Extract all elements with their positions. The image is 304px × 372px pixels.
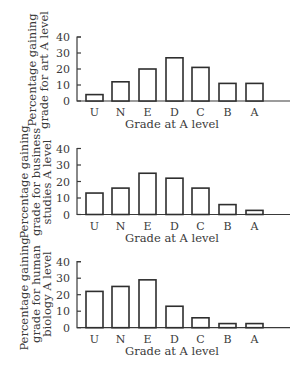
y-tick-label: 10 (56, 192, 70, 205)
bar-D (166, 58, 183, 101)
y-tick-label: 40 (56, 31, 70, 44)
bar-C (192, 67, 209, 101)
bar-N (112, 82, 129, 101)
bar-E (139, 69, 156, 101)
bar-A (246, 210, 263, 214)
y-tick-label: 30 (56, 272, 70, 285)
y-tick-label: 0 (63, 322, 70, 335)
bar-N (112, 188, 129, 214)
x-axis-label: Grade at A level (125, 344, 219, 358)
x-category-label: U (90, 106, 99, 119)
bar-E (139, 173, 156, 214)
y-tick-label: 20 (56, 176, 70, 189)
bar-D (166, 178, 183, 214)
x-category-label: B (223, 333, 231, 346)
x-axis-label: Grade at A level (125, 117, 219, 131)
bar-E (139, 280, 156, 328)
bar-U (86, 95, 103, 101)
bar-A (246, 324, 263, 328)
x-category-label: U (90, 220, 99, 233)
bar-U (86, 193, 103, 214)
chart-art: Percentage gaininggrade for art A level0… (25, 11, 290, 131)
y-tick-label: 20 (56, 289, 70, 302)
y-tick-label: 40 (56, 143, 70, 156)
y-tick-label: 20 (56, 63, 70, 76)
bar-B (219, 205, 236, 215)
bar-U (86, 291, 103, 327)
y-tick-label: 40 (56, 256, 70, 269)
x-axis-label: Grade at A level (125, 231, 219, 245)
x-category-label: A (250, 106, 260, 119)
chart-business-studies: Percentage gaininggrade for businessstud… (17, 125, 290, 245)
chart-human-biology: Percentage gaininggrade for humanbiology… (17, 237, 290, 358)
y-axis-label: biology A level (40, 251, 54, 337)
y-tick-label: 10 (56, 79, 70, 92)
y-tick-label: 30 (56, 159, 70, 172)
bar-N (112, 286, 129, 327)
x-category-label: A (250, 333, 260, 346)
y-tick-label: 0 (63, 209, 70, 222)
x-category-label: A (250, 220, 260, 233)
y-axis-label: studies A level (40, 139, 54, 224)
bar-B (219, 324, 236, 328)
figure: Percentage gaininggrade for art A level0… (0, 0, 304, 372)
x-category-label: B (223, 220, 231, 233)
y-axis-label: grade for art A level (37, 11, 51, 129)
bar-B (219, 83, 236, 101)
y-tick-label: 0 (63, 95, 70, 108)
bar-C (192, 188, 209, 214)
x-category-label: B (223, 106, 231, 119)
x-category-label: U (90, 333, 99, 346)
y-tick-label: 30 (56, 47, 70, 60)
bar-D (166, 306, 183, 327)
y-tick-label: 10 (56, 305, 70, 318)
bar-C (192, 318, 209, 328)
bar-A (246, 83, 263, 101)
